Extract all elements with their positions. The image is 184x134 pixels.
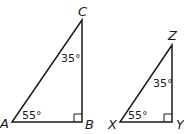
angle-x-label: 55°	[128, 109, 148, 122]
vertex-label-z: Z	[167, 28, 178, 43]
triangle-abc: A B C 55° 35°	[0, 4, 94, 132]
vertex-label-c: C	[78, 4, 88, 19]
angle-z-label: 35°	[153, 77, 173, 90]
right-angle-marker-y	[164, 114, 172, 122]
vertex-label-a: A	[0, 116, 9, 131]
vertex-label-x: X	[107, 117, 118, 132]
angle-c-label: 35°	[61, 52, 81, 65]
right-angle-marker-b	[74, 114, 82, 122]
vertex-label-b: B	[85, 117, 94, 132]
triangle-xyz: X Y Z 55° 35°	[107, 28, 184, 132]
angle-a-label: 55°	[22, 109, 42, 122]
vertex-label-y: Y	[176, 117, 184, 132]
similar-triangles-diagram: A B C 55° 35° X Y Z 55° 35°	[0, 0, 184, 134]
